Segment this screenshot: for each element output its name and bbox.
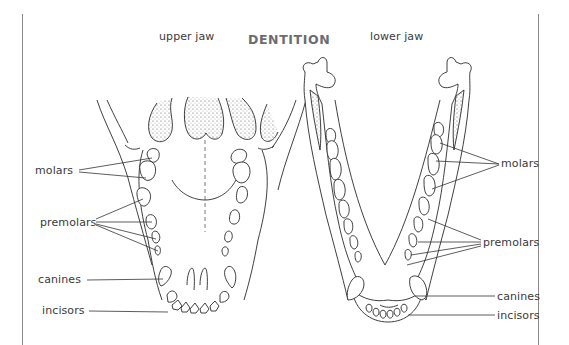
lower-jaw-drawing <box>303 58 471 323</box>
lower-label-canines: canines <box>497 291 540 303</box>
upper-label-incisors: incisors <box>42 305 85 317</box>
lower-label-premolars: premolars <box>483 237 539 249</box>
lower-label-incisors: incisors <box>497 310 540 322</box>
dentition-illustration <box>0 0 569 345</box>
upper-label-molars: molars <box>35 165 73 177</box>
upper-label-canines: canines <box>38 274 81 286</box>
upper-label-premolars: premolars <box>40 217 96 229</box>
lower-label-molars: molars <box>501 158 539 170</box>
